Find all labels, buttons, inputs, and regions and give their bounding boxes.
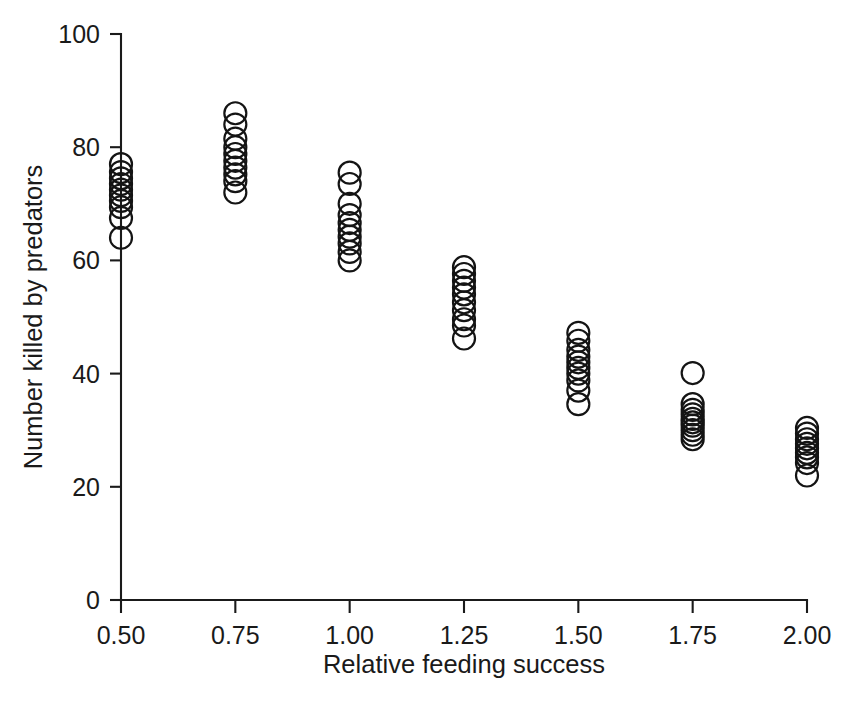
data-point-g5-0 bbox=[682, 362, 704, 384]
y-tick-label-5: 100 bbox=[58, 20, 100, 48]
ticks-group bbox=[110, 34, 807, 613]
y-tick-label-2: 40 bbox=[72, 360, 100, 388]
data-markers-group bbox=[110, 102, 818, 486]
x-tick-label-0: 0.50 bbox=[97, 621, 146, 649]
x-tick-label-1: 0.75 bbox=[211, 621, 260, 649]
x-tick-label-5: 1.75 bbox=[668, 621, 717, 649]
chart-figure: 0204060801000.500.751.001.251.501.752.00… bbox=[0, 0, 852, 705]
x-axis-title: Relative feeding success bbox=[323, 650, 605, 678]
x-tick-label-6: 2.00 bbox=[783, 621, 832, 649]
x-tick-label-4: 1.50 bbox=[554, 621, 603, 649]
y-tick-label-3: 60 bbox=[72, 246, 100, 274]
y-tick-label-0: 0 bbox=[86, 586, 100, 614]
x-tick-label-2: 1.00 bbox=[325, 621, 374, 649]
data-point-g4-9 bbox=[567, 393, 589, 415]
tick-labels-group: 0204060801000.500.751.001.251.501.752.00 bbox=[58, 20, 831, 649]
y-tick-label-1: 20 bbox=[72, 473, 100, 501]
axes-group bbox=[121, 34, 807, 600]
x-tick-label-3: 1.25 bbox=[440, 621, 489, 649]
y-tick-label-4: 80 bbox=[72, 133, 100, 161]
y-axis-title: Number killed by predators bbox=[19, 165, 47, 470]
scatter-plot-canvas: 0204060801000.500.751.001.251.501.752.00… bbox=[0, 0, 852, 705]
